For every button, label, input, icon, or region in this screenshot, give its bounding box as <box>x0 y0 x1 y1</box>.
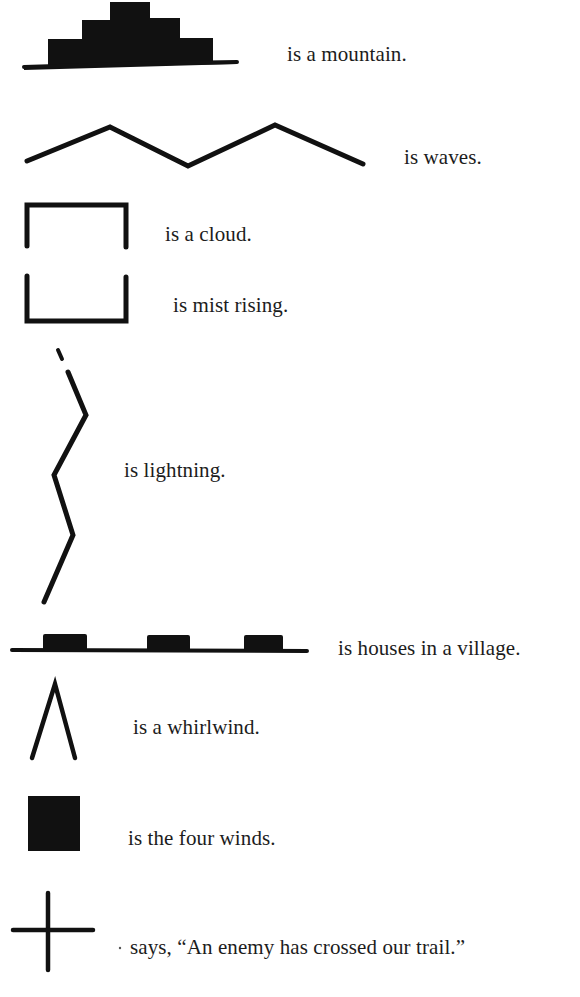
caption-cloud: is a cloud. <box>165 224 252 245</box>
mountain-icon <box>24 2 237 70</box>
pictograph-symbols <box>0 0 580 997</box>
four-winds-icon <box>28 796 80 851</box>
cross-icon <box>13 893 121 970</box>
caption-mountain: is a mountain. <box>287 44 407 65</box>
lightning-icon <box>44 350 86 602</box>
caption-cross: says, “An enemy has crossed our trail.” <box>130 937 465 958</box>
village-houses-icon <box>12 634 307 651</box>
caption-lightning: is lightning. <box>124 460 226 481</box>
waves-icon <box>27 125 363 166</box>
whirlwind-icon <box>32 684 75 758</box>
caption-mist-rising: is mist rising. <box>173 295 288 316</box>
mist-rising-icon <box>27 276 126 321</box>
caption-village-houses: is houses in a village. <box>338 638 521 659</box>
cloud-icon <box>27 205 126 247</box>
caption-whirlwind: is a whirlwind. <box>133 717 260 738</box>
caption-four-winds: is the four winds. <box>128 828 276 849</box>
caption-waves: is waves. <box>404 147 482 168</box>
